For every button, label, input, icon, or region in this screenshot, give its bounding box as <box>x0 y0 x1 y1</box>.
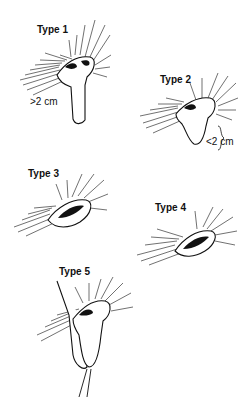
type-5-illustration <box>35 275 145 400</box>
type-2-illustration <box>138 68 245 163</box>
type-4-illustration <box>135 205 245 270</box>
type-1-illustration <box>15 15 115 125</box>
type-3-illustration <box>12 172 112 242</box>
